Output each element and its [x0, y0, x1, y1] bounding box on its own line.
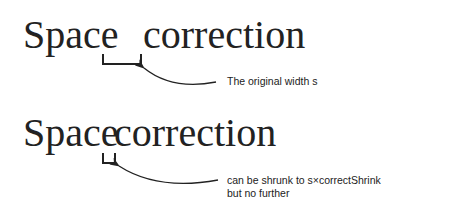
arrow-icon [144, 68, 216, 84]
space-width-bracket-shrunk [103, 153, 115, 163]
diagram-graphics [0, 0, 449, 213]
space-width-bracket-original [103, 54, 141, 64]
arrow-icon [119, 166, 218, 183]
